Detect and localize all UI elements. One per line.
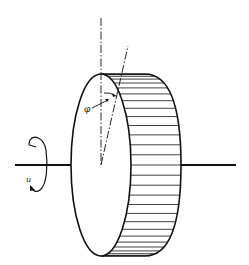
rotation-label-u: u [26,175,31,184]
disk-diagram: φ u [0,0,249,265]
rotation-arrowhead [30,185,35,191]
angle-label-phi: φ [84,104,91,114]
